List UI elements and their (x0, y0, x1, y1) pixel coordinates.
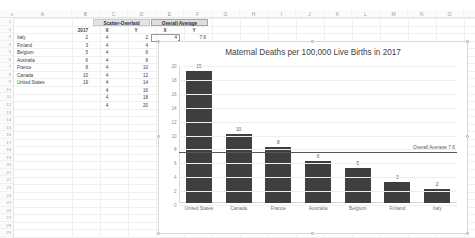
cell-d7-y[interactable]: 10 (122, 64, 148, 72)
row-header-24[interactable]: 24 (0, 192, 13, 200)
cell-d2-y[interactable]: Y (122, 27, 150, 35)
column-header-o[interactable]: O (436, 10, 464, 17)
scatter-overlaid-header[interactable]: Scatter-Overlaid (93, 19, 150, 26)
row-header-6[interactable]: 6 (0, 56, 13, 64)
cell-b8-value[interactable]: 10 (62, 72, 88, 80)
chart-plot-area[interactable]: 19United States10Canada8France6Australia… (179, 66, 457, 203)
overall-average-header[interactable]: Overall Average (151, 19, 208, 26)
column-header-e[interactable]: E (156, 10, 184, 17)
chart-bar-column[interactable]: 8France (258, 66, 298, 203)
cell-c11-x[interactable]: 4 (93, 94, 121, 102)
row-header-14[interactable]: 14 (0, 116, 13, 124)
cell-a4-country[interactable]: Finland (17, 42, 32, 50)
row-header-9[interactable]: 9 (0, 78, 13, 86)
cell-d5-y[interactable]: 6 (122, 49, 148, 57)
cell-d6-y[interactable]: 8 (122, 57, 148, 65)
row-header-12[interactable]: 12 (0, 101, 13, 109)
chart-bar[interactable] (345, 168, 371, 203)
row-header-19[interactable]: 19 (0, 154, 13, 162)
chart-bar[interactable] (265, 147, 291, 203)
row-header-3[interactable]: 3 (0, 33, 13, 41)
cell-b3-value[interactable]: 2 (62, 34, 88, 42)
overall-average-line[interactable] (179, 152, 457, 153)
cell-d4-y[interactable]: 4 (122, 42, 148, 50)
chart-bar-column[interactable]: 2Italy (417, 66, 457, 203)
cell-b2-year[interactable]: 2017 (62, 27, 88, 35)
row-header-25[interactable]: 25 (0, 199, 13, 207)
cell-c6-x[interactable]: 4 (93, 57, 121, 65)
row-header-1[interactable]: 1 (0, 18, 13, 26)
cell-b4-value[interactable]: 3 (62, 42, 88, 50)
column-header-c[interactable]: C (100, 10, 128, 17)
chart-bar-column[interactable]: 19United States (179, 66, 219, 203)
cell-c9-x[interactable]: 4 (93, 79, 121, 87)
row-header-17[interactable]: 17 (0, 139, 13, 147)
row-header-16[interactable]: 16 (0, 131, 13, 139)
row-header-22[interactable]: 22 (0, 176, 13, 184)
row-header-13[interactable]: 13 (0, 109, 13, 117)
row-header-23[interactable]: 23 (0, 184, 13, 192)
column-header-d[interactable]: D (128, 10, 156, 17)
row-header-2[interactable]: 2 (0, 26, 13, 34)
chart-resize-handle-bottom-right[interactable] (466, 232, 469, 235)
cell-b7-value[interactable]: 8 (62, 64, 88, 72)
cell-f2-y[interactable]: Y (180, 27, 208, 35)
column-header-m[interactable]: M (380, 10, 408, 17)
chart-resize-handle-middle-left[interactable] (157, 135, 160, 138)
column-header-j[interactable]: J (296, 10, 324, 17)
column-header-f[interactable]: F (184, 10, 212, 17)
row-header-29[interactable]: 29 (0, 229, 13, 237)
cell-c5-x[interactable]: 4 (93, 49, 121, 57)
column-header-h[interactable]: H (240, 10, 268, 17)
chart-bar[interactable] (384, 182, 410, 203)
cell-c4-x[interactable]: 4 (93, 42, 121, 50)
cell-b6-value[interactable]: 6 (62, 57, 88, 65)
column-header-k[interactable]: K (324, 10, 352, 17)
chart-resize-handle-top-center[interactable] (311, 40, 314, 43)
column-header-i[interactable]: I (268, 10, 296, 17)
row-header-20[interactable]: 20 (0, 161, 13, 169)
cell-a3-country[interactable]: Italy (17, 34, 25, 42)
row-header-28[interactable]: 28 (0, 222, 13, 230)
cell-c2-x[interactable]: X (93, 27, 121, 35)
cell-a6-country[interactable]: Australia (17, 57, 35, 65)
cell-c8-x[interactable]: 4 (93, 72, 121, 80)
cell-b5-value[interactable]: 5 (62, 49, 88, 57)
cell-a7-country[interactable]: France (17, 64, 31, 72)
row-header-8[interactable]: 8 (0, 71, 13, 79)
select-all-corner[interactable]: ◢ (0, 10, 14, 17)
chart-bar-column[interactable]: 5Belgium (338, 66, 378, 203)
column-header-g[interactable]: G (212, 10, 240, 17)
cell-d9-y[interactable]: 14 (122, 79, 148, 87)
cell-a9-country[interactable]: United States (17, 79, 45, 87)
cell-a5-country[interactable]: Belgium (17, 49, 34, 57)
chart-resize-handle-top-left[interactable] (157, 40, 160, 43)
cell-d11-y[interactable]: 18 (122, 94, 148, 102)
row-header-18[interactable]: 18 (0, 146, 13, 154)
chart-bar[interactable] (186, 71, 212, 203)
column-header-a[interactable]: A (14, 10, 72, 17)
column-header-l[interactable]: L (352, 10, 380, 17)
chart-bar[interactable] (226, 134, 252, 204)
chart-bar-column[interactable]: 6Australia (298, 66, 338, 203)
row-header-10[interactable]: 10 (0, 86, 13, 94)
row-header-21[interactable]: 21 (0, 169, 13, 177)
chart-bar-column[interactable]: 3Finland (378, 66, 418, 203)
chart-bar-column[interactable]: 10Canada (219, 66, 259, 203)
cell-c12-x[interactable]: 4 (93, 102, 121, 110)
cell-c3-x[interactable]: 4 (93, 34, 121, 42)
chart-bar[interactable] (305, 161, 331, 203)
cell-d8-y[interactable]: 12 (122, 72, 148, 80)
chart-object[interactable]: Maternal Deaths per 100,000 Live Births … (158, 41, 468, 234)
cell-a8-country[interactable]: Canada (17, 72, 33, 80)
cell-d10-y[interactable]: 16 (122, 87, 148, 95)
cell-d3-y[interactable]: 2 (122, 34, 148, 42)
chart-bar-series[interactable]: 19United States10Canada8France6Australia… (179, 66, 457, 203)
column-header-b[interactable]: B (72, 10, 100, 17)
row-header-15[interactable]: 15 (0, 124, 13, 132)
column-header-n[interactable]: N (408, 10, 436, 17)
row-header-26[interactable]: 26 (0, 207, 13, 215)
cell-c10-x[interactable]: 4 (93, 87, 121, 95)
cell-b9-value[interactable]: 19 (62, 79, 88, 87)
row-header-7[interactable]: 7 (0, 63, 13, 71)
